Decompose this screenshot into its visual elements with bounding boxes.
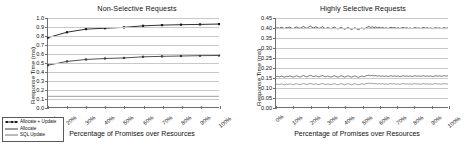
x-axis-tick <box>163 106 164 109</box>
x-axis-tick <box>105 106 106 109</box>
y-axis-tick-label: 0.3 <box>36 78 44 84</box>
series-marker <box>142 56 144 58</box>
x-axis-tick-label: 60% <box>142 114 155 126</box>
x-axis-tick-label: 100% <box>446 115 461 129</box>
x-axis-label-right: Percentage of Promises over Resources <box>262 130 452 137</box>
y-axis-tick-label: 0.10 <box>261 85 272 91</box>
series-marker <box>161 55 163 57</box>
y-axis-tick-label: 0.30 <box>261 45 272 51</box>
y-axis-tick <box>45 99 48 100</box>
series-marker <box>199 23 201 25</box>
gridline <box>276 78 448 79</box>
x-axis-tick <box>220 106 221 109</box>
legend-swatch-icon <box>5 132 18 138</box>
x-axis-tick <box>432 106 433 109</box>
x-axis-tick <box>397 106 398 109</box>
x-axis-tick <box>449 106 450 109</box>
y-axis-tick-label: 0.05 <box>261 95 272 101</box>
y-axis-tick <box>45 27 48 28</box>
gridline <box>48 99 219 100</box>
gridline <box>276 48 448 49</box>
x-axis-tick <box>144 106 145 109</box>
x-axis-tick-label: 20% <box>65 114 78 126</box>
x-axis-tick <box>328 106 329 109</box>
y-axis-tick-label: 1.0 <box>36 15 44 21</box>
plot-area-right: 0.000.050.100.150.200.250.300.350.400.45… <box>275 18 448 108</box>
y-axis-tick <box>273 58 276 59</box>
gridline <box>276 68 448 69</box>
x-axis-tick <box>345 106 346 109</box>
gridline <box>48 81 219 82</box>
legend-item: SQL Update <box>5 132 61 138</box>
chart-panel-highly-selective: Highly Selective Requests Response Time … <box>230 0 460 151</box>
y-axis-tick <box>273 78 276 79</box>
chart-title-right: Highly Selective Requests <box>230 4 465 13</box>
x-axis-tick <box>182 106 183 109</box>
y-axis-tick-label: 0.40 <box>261 25 272 31</box>
gridline <box>48 18 219 19</box>
y-axis-tick <box>273 88 276 89</box>
series-line <box>276 75 448 77</box>
x-axis-tick-label: 40% <box>343 114 356 126</box>
y-axis-tick-label: 0.2 <box>36 87 44 93</box>
x-axis-tick-label: 40% <box>103 114 116 126</box>
legend-swatch-icon <box>5 119 18 125</box>
x-axis-tick-label: 90% <box>430 114 443 126</box>
legend-item-label: Allocate + Update <box>20 119 56 125</box>
x-axis-label-left: Percentage of Promises over Resources <box>42 130 222 137</box>
x-axis-tick <box>86 106 87 109</box>
series-marker <box>123 57 125 59</box>
y-axis-tick <box>273 98 276 99</box>
x-axis-tick-label: 30% <box>84 114 97 126</box>
x-axis-tick-label: 10% <box>291 114 304 126</box>
x-axis-tick <box>311 106 312 109</box>
x-axis-tick <box>124 106 125 109</box>
y-axis-tick <box>45 90 48 91</box>
y-axis-tick-label: 0.6 <box>36 51 44 57</box>
series-marker <box>66 31 68 33</box>
y-axis-tick-label: 0.9 <box>36 24 44 30</box>
y-axis-tick-label: 0.7 <box>36 42 44 48</box>
gridline <box>276 98 448 99</box>
y-axis-tick <box>45 36 48 37</box>
x-axis-tick <box>363 106 364 109</box>
legend-item: Allocate <box>5 126 61 132</box>
x-axis-tick-label: 0% <box>275 113 285 123</box>
series-marker <box>104 57 106 59</box>
y-axis-tick <box>273 28 276 29</box>
x-axis-tick-label: 20% <box>309 114 322 126</box>
y-axis-tick-label: 0.8 <box>36 33 44 39</box>
x-axis-tick-label: 90% <box>199 114 212 126</box>
chart-title-left: Non-Selective Requests <box>0 4 252 13</box>
gridline <box>48 54 219 55</box>
gridline <box>276 58 448 59</box>
y-axis-tick <box>45 81 48 82</box>
legend: Allocate + UpdateAllocateSQL Update <box>2 117 64 142</box>
y-axis-tick-label: 0.15 <box>261 75 272 81</box>
y-axis-tick-label: 0.35 <box>261 35 272 41</box>
y-axis-tick-label: 0.20 <box>261 65 272 71</box>
series-marker <box>180 55 182 57</box>
gridline <box>276 88 448 89</box>
y-axis-tick-label: 0.1 <box>36 96 44 102</box>
legend-item-label: Allocate <box>20 126 36 132</box>
x-axis-tick-label: 70% <box>161 114 174 126</box>
series-marker <box>218 23 220 25</box>
gridline <box>276 28 448 29</box>
x-axis-tick <box>48 106 49 109</box>
y-axis-tick <box>45 63 48 64</box>
y-axis-tick-label: 0.5 <box>36 60 44 66</box>
series-line <box>276 83 448 85</box>
y-axis-tick <box>45 72 48 73</box>
series-marker <box>180 24 182 26</box>
gridline <box>48 72 219 73</box>
x-axis-tick-label: 50% <box>360 114 373 126</box>
y-axis-tick <box>273 38 276 39</box>
gridline <box>48 63 219 64</box>
series-marker <box>161 24 163 26</box>
series-marker <box>47 64 49 66</box>
y-axis-tick <box>273 18 276 19</box>
y-axis-tick <box>45 45 48 46</box>
gridline <box>48 45 219 46</box>
